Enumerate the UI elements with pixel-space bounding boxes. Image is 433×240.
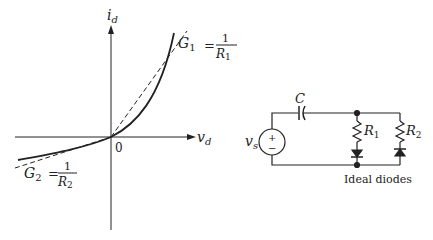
ideal-diodes-caption: Ideal diodes <box>344 173 412 186</box>
capacitor-label: C <box>295 91 305 106</box>
source-minus: − <box>268 143 276 154</box>
svg-text:=: = <box>204 38 215 53</box>
r2-label: R2 <box>405 123 422 140</box>
svg-text:1: 1 <box>222 32 229 45</box>
svg-text:1: 1 <box>64 160 71 173</box>
svg-text:R2: R2 <box>57 175 73 190</box>
y-axis-label: id <box>107 7 118 25</box>
origin-label: 0 <box>115 141 123 155</box>
iv-graph <box>15 25 196 230</box>
resistor-r2-icon <box>396 121 404 142</box>
svg-text:G2: G2 <box>24 165 42 183</box>
source-label: vs <box>245 133 258 151</box>
diode-characteristic-curve <box>18 33 174 160</box>
x-axis-label: vd <box>197 129 211 147</box>
x-axis-arrow-icon <box>187 134 196 140</box>
g2-label: G2 = 1 R2 <box>24 160 77 190</box>
svg-text:R1: R1 <box>215 47 231 62</box>
svg-text:G1: G1 <box>178 35 196 53</box>
g1-slope-line <box>111 31 187 137</box>
source-plus: + <box>268 132 276 143</box>
wire-bottom <box>272 155 400 165</box>
diagram-canvas: id vd 0 G1 = 1 R1 G2 = 1 R2 <box>0 0 433 240</box>
y-axis-arrow-icon <box>108 25 114 34</box>
resistor-r1-icon <box>353 121 361 142</box>
wire-left-top <box>272 113 298 129</box>
circuit <box>259 106 406 168</box>
diode-d1-icon <box>352 150 362 157</box>
node-bottom-r1 <box>355 163 360 168</box>
diode-d2-icon <box>395 149 405 156</box>
r1-label: R1 <box>363 123 380 140</box>
g1-label: G1 = 1 R1 <box>178 32 237 62</box>
